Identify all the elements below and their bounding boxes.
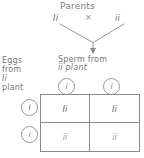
punnett-square-diagram: Parents Ii × ii Sperm from ii plant Eggs… [0,0,144,158]
punnett-cell-r2c1: ii [41,123,90,151]
gamete-column-1: i [58,78,75,95]
sperm-label-line2: ii plant [58,64,107,72]
parents-title: Parents [60,2,95,11]
punnett-cell-r1c2: Ii [90,95,139,123]
punnett-cell-r2c2: ii [90,123,139,151]
eggs-label-line4: plant [2,84,23,93]
parent-right-genotype: ii [115,14,120,23]
down-arrow-icon [90,48,96,54]
gamete-row-2: i [21,126,38,143]
gamete-column-2: i [103,78,120,95]
punnett-grid: Ii Ii ii ii [40,94,140,152]
sperm-source-label: Sperm from ii plant [58,56,107,73]
eggs-source-label: Eggs from Ii plant [2,57,23,93]
cross-symbol: × [85,14,92,22]
punnett-cell-r1c1: Ii [41,95,90,123]
parent-left-genotype: Ii [53,14,58,23]
gamete-row-1: I [21,99,38,116]
